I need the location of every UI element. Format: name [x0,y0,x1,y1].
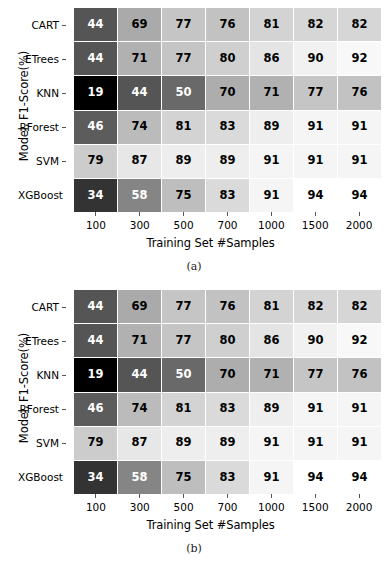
y-tick-knn: KNN [18,76,68,110]
y-tick-label: CART [32,19,59,31]
heatmap-cell: 80 [206,324,249,357]
heatmap-cell: 94 [294,461,337,494]
y-tick-cart: CART [18,290,68,324]
y-tick-rforest: RForest [18,392,68,426]
heatmap-cell: 77 [162,290,205,323]
x-tick-label: 2000 [346,501,373,513]
heatmap-cell: 90 [294,42,337,75]
heatmap-cell: 86 [250,42,293,75]
heatmap-cell: 91 [250,179,293,212]
x-tick-1500: 1500 [293,212,337,234]
heatmap-cell: 44 [74,42,117,75]
heatmap-panel-a: Model, F1-Score(%) CARTETreesKNNRForestS… [0,0,388,282]
x-tick-700: 700 [206,494,250,516]
heatmap-cell: 71 [250,358,293,391]
y-tick-label: XGBoost [18,471,63,483]
x-tick-mark [183,212,184,216]
heatmap-cell: 71 [250,76,293,109]
x-tick-label: 500 [174,501,194,513]
heatmap-cell: 92 [338,42,381,75]
heatmap-cell: 46 [74,393,117,426]
heatmap-cell: 71 [118,324,161,357]
heatmap-cell: 70 [206,358,249,391]
x-tick-mark [183,494,184,498]
x-tick-100: 100 [74,212,118,234]
y-tick-label: RForest [19,403,59,415]
heatmap-cell: 94 [338,461,381,494]
heatmap-cell: 77 [162,8,205,41]
heatmap-cell: 94 [338,179,381,212]
heatmap-cell: 76 [206,290,249,323]
x-tick-label: 700 [217,219,237,231]
x-tick-1000: 1000 [249,494,293,516]
heatmap-cell: 87 [118,145,161,178]
heatmap-cell: 77 [294,358,337,391]
y-axis-tick-labels-b: CARTETreesKNNRForestSVMXGBoost [18,290,68,494]
heatmap-cell: 89 [206,427,249,460]
x-tick-mark [315,212,316,216]
heatmap-cell: 86 [250,324,293,357]
y-tick-label: SVM [36,155,59,167]
heatmap-cell: 77 [162,42,205,75]
x-tick-mark [139,212,140,216]
x-tick-label: 1500 [302,501,329,513]
x-tick-mark [359,494,360,498]
heatmap-cell: 71 [118,42,161,75]
heatmap-cell: 77 [294,76,337,109]
heatmap-cell: 76 [338,358,381,391]
heatmap-cell: 89 [162,427,205,460]
x-tick-mark [315,494,316,498]
x-tick-2000: 2000 [337,494,381,516]
heatmap-cell: 91 [338,145,381,178]
heatmap-cell: 83 [206,393,249,426]
heatmap-cell: 69 [118,290,161,323]
heatmap-cell: 79 [74,145,117,178]
y-tick-etrees: ETrees [18,324,68,358]
x-tick-500: 500 [162,212,206,234]
heatmap-cell: 50 [162,76,205,109]
x-tick-500: 500 [162,494,206,516]
heatmap-cell: 82 [338,290,381,323]
heatmap-cell: 91 [294,393,337,426]
heatmap-cell: 82 [294,8,337,41]
heatmap-cell: 34 [74,461,117,494]
y-tick-label: RForest [19,121,59,133]
heatmap-cell: 19 [74,76,117,109]
x-tick-label: 700 [217,501,237,513]
x-tick-label: 300 [130,219,150,231]
x-tick-mark [95,494,96,498]
heatmap-cell: 69 [118,8,161,41]
x-tick-2000: 2000 [337,212,381,234]
x-tick-100: 100 [74,494,118,516]
y-tick-xgboost: XGBoost [18,460,68,494]
figure-caption-a: (a) [0,260,388,273]
y-tick-label: ETrees [25,53,59,65]
x-axis-tick-labels-b: 100300500700100015002000 [74,494,381,516]
heatmap-cell: 90 [294,324,337,357]
y-tick-label: KNN [36,87,59,99]
heatmap-grid-b: 4469777681828244717780869092194450707177… [74,290,381,494]
heatmap-cell: 91 [250,427,293,460]
heatmap-cell: 44 [74,290,117,323]
y-tick-label: KNN [36,369,59,381]
x-tick-label: 100 [86,501,106,513]
x-tick-300: 300 [118,494,162,516]
heatmap-cell: 94 [294,179,337,212]
heatmap-cell: 58 [118,179,161,212]
x-tick-1500: 1500 [293,494,337,516]
x-tick-label: 100 [86,219,106,231]
y-tick-knn: KNN [18,358,68,392]
y-tick-cart: CART [18,8,68,42]
heatmap-cell: 83 [206,179,249,212]
heatmap-cell: 70 [206,76,249,109]
heatmap-grid-a: 4469777681828244717780869092194450707177… [74,8,381,212]
x-axis-label-a: Training Set #Samples [40,236,381,250]
heatmap-cell: 81 [250,290,293,323]
heatmap-cell: 89 [162,145,205,178]
y-tick-label: XGBoost [18,189,63,201]
y-tick-svm: SVM [18,426,68,460]
y-tick-label: CART [32,301,59,313]
x-tick-label: 500 [174,219,194,231]
x-tick-300: 300 [118,212,162,234]
heatmap-cell: 44 [74,8,117,41]
